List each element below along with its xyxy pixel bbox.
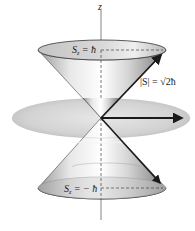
magnitude-label: |S| = √2ħ — [140, 76, 176, 87]
spin-cone-diagram: z Sz = — [0, 0, 195, 231]
upper-cone-label: Sz = ħ — [72, 44, 96, 56]
z-axis-label: z — [97, 1, 102, 12]
